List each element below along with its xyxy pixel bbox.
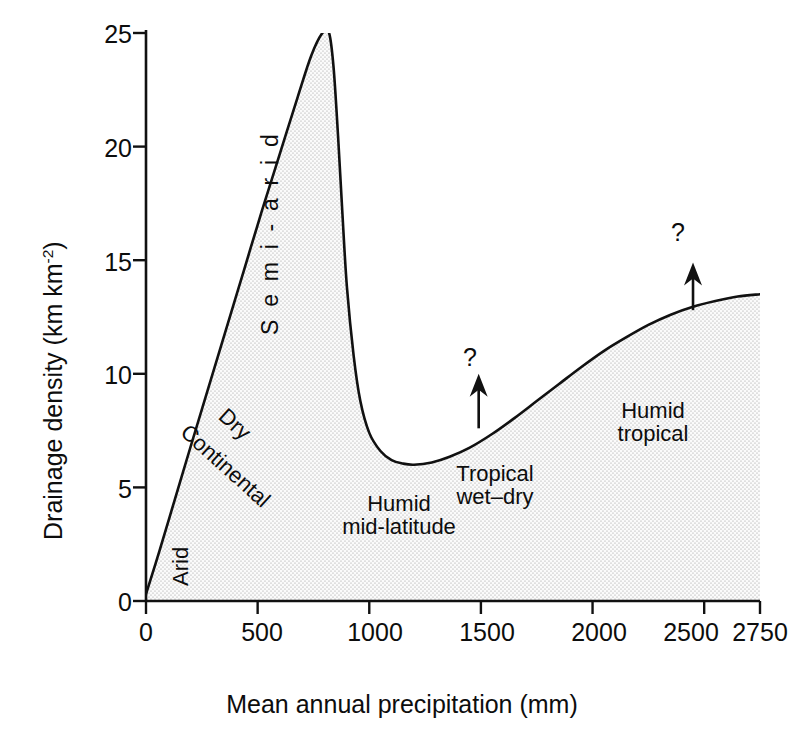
x-tick-label-500: 500 [231, 619, 293, 645]
y-tick-label-20: 20 [86, 135, 132, 161]
question-mark-1: ? [454, 344, 486, 370]
y-axis-title-text: Drainage density (km km [39, 264, 67, 540]
y-axis-title: Drainage density (km km-2) [40, 241, 67, 540]
humid-tropical-line1: Humid [573, 399, 733, 422]
x-tick-label-2500: 2500 [653, 619, 729, 645]
region-label-semi-arid: S e m i - a r i d [258, 131, 282, 335]
region-label-arid: Arid [169, 547, 192, 586]
y-axis-title-exponent: -2 [39, 250, 56, 264]
humid-mid-latitude-line2: mid-latitude [306, 515, 492, 538]
drainage-density-chart: 25 20 15 10 5 0 0 500 1000 1500 2000 250… [0, 0, 804, 742]
x-tick-label-2000: 2000 [561, 619, 637, 645]
y-axis-title-close-paren: ) [39, 241, 67, 249]
question-mark-2: ? [662, 219, 694, 245]
region-label-tropical-wet-dry: Tropical wet–dry [420, 462, 570, 508]
tropical-wet-dry-line1: Tropical [420, 462, 570, 485]
tropical-wet-dry-line2: wet–dry [420, 485, 570, 508]
x-tick-label-1000: 1000 [337, 619, 413, 645]
humid-tropical-line2: tropical [573, 422, 733, 445]
x-axis-ticks [146, 601, 760, 614]
x-tick-label-0: 0 [120, 619, 172, 645]
y-axis-ticks [133, 33, 146, 601]
arrow-1 [470, 374, 488, 429]
arrow-2 [684, 262, 702, 310]
region-label-humid-tropical: Humid tropical [573, 399, 733, 445]
x-axis-title: Mean annual precipitation (mm) [0, 691, 804, 717]
y-tick-label-15: 15 [86, 249, 132, 275]
x-tick-label-2750: 2750 [722, 619, 798, 645]
y-tick-label-25: 25 [86, 21, 132, 47]
x-tick-label-1500: 1500 [449, 619, 525, 645]
y-tick-label-0: 0 [86, 589, 132, 615]
y-tick-label-5: 5 [86, 476, 132, 502]
y-tick-label-10: 10 [86, 362, 132, 388]
